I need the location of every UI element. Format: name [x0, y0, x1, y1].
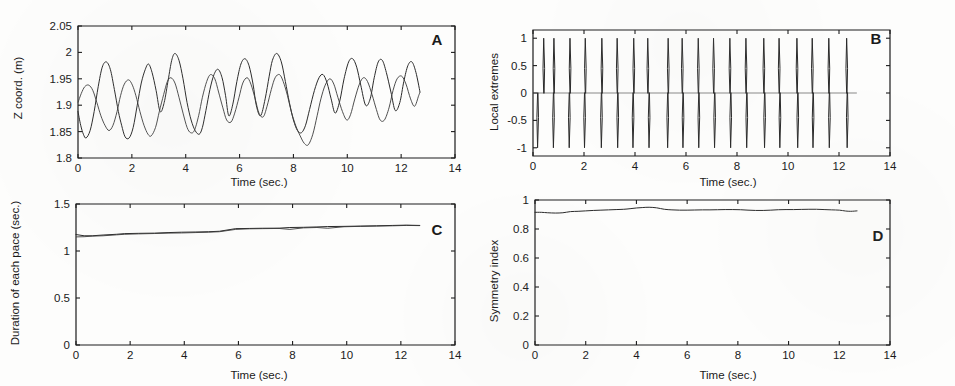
x-tick-label: 0 — [75, 162, 81, 174]
positive-extreme-spike — [713, 38, 715, 93]
panel-d-y-ticklabels: 00.20.40.60.81 — [513, 194, 530, 351]
panel-d-xlabel: Time (sec.) — [699, 369, 756, 381]
x-tick-label: 4 — [181, 349, 188, 361]
negative-extreme-spike — [648, 93, 650, 148]
panel-b-y-ticklabels: -1-0.500.51 — [507, 32, 527, 154]
y-tick-label: 2 — [66, 46, 72, 58]
y-tick-label: 1.8 — [56, 152, 72, 164]
y-tick-label: -0.5 — [507, 114, 527, 126]
positive-extreme-spike — [553, 38, 555, 93]
panel-b-x-ticklabels: 02468101214 — [530, 160, 897, 172]
y-tick-label: 0.8 — [513, 223, 529, 235]
panel-a-series-group — [78, 53, 420, 145]
panel-d-series-group — [535, 207, 857, 213]
negative-extreme-spike — [797, 93, 799, 148]
panel-c: 02468101214 00.511.5 Time (sec.) Duratio… — [0, 193, 478, 386]
positive-extreme-spike — [828, 38, 830, 93]
x-tick-label: 8 — [735, 349, 741, 361]
x-tick-label: 10 — [340, 349, 353, 361]
x-tick-label: 10 — [341, 162, 354, 174]
x-tick-label: 10 — [782, 349, 795, 361]
panel-a-y-ticklabels: 1.81.851.91.9522.05 — [50, 20, 72, 164]
positive-extreme-spike — [796, 38, 798, 93]
x-tick-label: 2 — [581, 160, 587, 172]
y-tick-label: 0.4 — [513, 281, 530, 293]
y-tick-label: 1.85 — [50, 126, 72, 138]
positive-extreme-spike — [729, 38, 731, 93]
data-series-marker-1 — [78, 53, 420, 138]
panel-d-ylabel: Symmetry index — [488, 240, 500, 323]
positive-extreme-spike — [616, 38, 618, 93]
negative-extreme-spike — [569, 93, 571, 148]
panel-c-axes: 02468101214 00.511.5 — [54, 198, 462, 361]
y-tick-label: 1.5 — [54, 198, 70, 210]
negative-extreme-spike — [682, 93, 684, 148]
negative-extreme-spike — [714, 93, 716, 148]
panel-a-ylabel: Z coord. (m) — [12, 57, 24, 120]
panel-d-tickmarks — [535, 200, 890, 345]
negative-extreme-spike — [632, 93, 634, 148]
negative-extreme-spike — [764, 93, 766, 148]
panel-d-letter: D — [873, 227, 884, 244]
positive-extreme-spike — [778, 38, 780, 93]
negative-extreme-spike — [537, 93, 539, 148]
panel-b-xlabel: Time (sec.) — [699, 176, 756, 188]
panel-b-letter: B — [871, 30, 882, 47]
positive-extreme-spike — [633, 38, 635, 93]
x-tick-label: 2 — [129, 162, 135, 174]
negative-extreme-spike — [779, 93, 781, 148]
x-tick-label: 8 — [289, 349, 295, 361]
positive-extreme-spike — [745, 38, 747, 93]
y-tick-label: 0.2 — [513, 310, 529, 322]
negative-extreme-spike — [698, 93, 700, 148]
panel-c-xlabel: Time (sec.) — [230, 369, 287, 381]
x-tick-label: 6 — [684, 349, 690, 361]
positive-extreme-spike — [585, 38, 587, 93]
x-tick-label: 0 — [532, 349, 538, 361]
y-tick-label: 0.6 — [513, 252, 529, 264]
y-tick-label: 0 — [521, 87, 527, 99]
panel-a-plot: 02468101214 1.81.851.91.9522.05 Time (se… — [0, 0, 478, 193]
negative-extreme-spike — [730, 93, 732, 148]
panel-a-axes: 02468101214 1.81.851.91.9522.05 — [50, 20, 462, 174]
negative-extreme-spike — [553, 93, 555, 148]
y-tick-label: 0 — [64, 339, 70, 351]
panel-c-ylabel: Duration of each pace (sec.) — [9, 201, 21, 346]
panel-d-plot: 02468101214 00.20.40.60.81 Time (sec.) S… — [478, 193, 955, 386]
y-tick-label: 0.5 — [54, 292, 70, 304]
x-tick-label: 14 — [884, 349, 897, 361]
x-tick-label: 0 — [73, 349, 79, 361]
x-tick-label: 0 — [530, 160, 536, 172]
positive-extreme-spike — [569, 38, 571, 93]
panel-d-axis-box — [535, 200, 890, 345]
positive-extreme-spike — [846, 38, 848, 93]
panel-c-letter: C — [432, 221, 443, 238]
panel-d: 02468101214 00.20.40.60.81 Time (sec.) S… — [478, 193, 955, 386]
panel-d-x-ticklabels: 02468101214 — [532, 349, 897, 361]
positive-extreme-spike — [763, 38, 765, 93]
negative-extreme-spike — [846, 93, 848, 148]
data-series-symmetry-index — [535, 207, 857, 213]
x-tick-label: 4 — [633, 349, 640, 361]
x-tick-label: 4 — [632, 160, 639, 172]
x-tick-label: 10 — [782, 160, 795, 172]
negative-extreme-spike — [812, 93, 814, 148]
positive-extreme-spike — [543, 38, 545, 93]
y-tick-label: 1 — [64, 245, 70, 257]
negative-extreme-spike — [584, 93, 586, 148]
negative-extreme-spike — [617, 93, 619, 148]
x-tick-label: 12 — [833, 160, 846, 172]
figure-canvas: 02468101214 1.81.851.91.9522.05 Time (se… — [0, 0, 955, 386]
y-tick-label: 1.95 — [50, 73, 72, 85]
positive-extreme-spike — [667, 38, 669, 93]
x-tick-label: 6 — [236, 162, 242, 174]
panel-a: 02468101214 1.81.851.91.9522.05 Time (se… — [0, 0, 478, 193]
panel-c-series-group — [76, 225, 420, 237]
negative-extreme-spike — [829, 93, 831, 148]
panel-b: 02468101214 -1-0.500.51 Time (sec.) Loca… — [478, 0, 955, 193]
x-tick-label: 14 — [884, 160, 897, 172]
y-tick-label: 0 — [523, 339, 529, 351]
data-series-pace-right — [76, 225, 420, 236]
x-tick-label: 8 — [290, 162, 296, 174]
positive-extreme-spike — [681, 38, 683, 93]
